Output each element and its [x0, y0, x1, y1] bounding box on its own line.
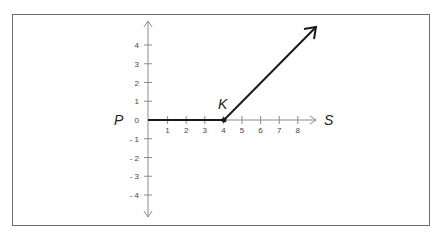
x-tick-label: 8 — [296, 126, 301, 135]
y-tick-label: 1 — [135, 97, 140, 106]
y-tick-label: - 4 — [130, 191, 140, 200]
y-tick-label: 2 — [135, 79, 140, 88]
y-tick-label: 4 — [135, 41, 140, 50]
y-tick-label: - 3 — [130, 172, 140, 181]
y-tick-label: - 2 — [130, 154, 140, 163]
payoff-chart: 43210- 1- 2- 3- 4 12345678 P S K — [0, 0, 443, 241]
k-strike-label: K — [218, 96, 228, 112]
x-tick-label: 5 — [240, 126, 245, 135]
x-tick-label: 2 — [184, 126, 189, 135]
y-tick-label: 3 — [135, 60, 140, 69]
x-tick-label: 3 — [203, 126, 208, 135]
s-axis-label: S — [324, 112, 334, 128]
y-tick-label: - 1 — [130, 135, 140, 144]
payoff-line — [148, 27, 316, 123]
p-axis-label: P — [114, 112, 124, 128]
strike-point — [222, 118, 227, 123]
x-tick-label: 4 — [221, 126, 226, 135]
x-ticks: 12345678 — [165, 116, 300, 135]
x-tick-label: 7 — [277, 126, 282, 135]
x-tick-label: 6 — [258, 126, 263, 135]
x-tick-label: 1 — [165, 126, 170, 135]
y-tick-label: 0 — [135, 116, 140, 125]
